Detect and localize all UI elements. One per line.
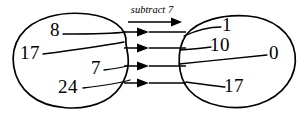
operation-label: subtract 7 bbox=[131, 4, 174, 15]
mapping-diagram: subtract 7 bbox=[0, 0, 301, 117]
output-value-1: 1 bbox=[222, 14, 232, 35]
input-value-7: 7 bbox=[91, 57, 101, 78]
connector-output-0 bbox=[179, 55, 267, 64]
input-value-24: 24 bbox=[58, 76, 78, 97]
connector-input-7 bbox=[104, 66, 127, 70]
diagram-canvas: subtract 7 bbox=[0, 0, 301, 117]
mapping-arrow-4 bbox=[124, 79, 186, 88]
mapping-arrow-1 bbox=[124, 28, 186, 37]
operation-arrow bbox=[128, 18, 182, 27]
connector-input-24 bbox=[83, 80, 130, 88]
output-value-0: 0 bbox=[269, 42, 279, 63]
mapping-arrow-2 bbox=[124, 44, 186, 53]
connector-input-17 bbox=[43, 42, 124, 54]
output-value-10: 10 bbox=[210, 34, 230, 55]
output-value-17: 17 bbox=[224, 75, 244, 96]
mapping-arrow-3 bbox=[124, 62, 186, 71]
input-value-17: 17 bbox=[20, 42, 40, 63]
connector-input-8 bbox=[63, 32, 125, 34]
connector-output-17 bbox=[186, 82, 225, 87]
input-value-8: 8 bbox=[50, 19, 60, 40]
